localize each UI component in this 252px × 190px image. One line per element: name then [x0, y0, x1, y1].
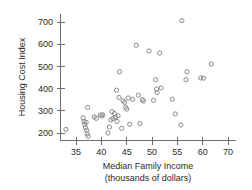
data-point [117, 70, 121, 74]
y-tick-label: 200 [38, 128, 53, 138]
x-axis-title: Median Family Income [103, 161, 194, 171]
data-point [147, 49, 151, 53]
y-tick-label: 300 [38, 106, 53, 116]
y-tick-label: 500 [38, 62, 53, 72]
data-point [158, 51, 162, 55]
x-tick-label: 60 [198, 147, 208, 157]
data-point [138, 121, 142, 125]
housing-cost-scatter-chart: 200300400500600700 35404550556070 Median… [0, 0, 252, 190]
y-tick-label: 600 [38, 39, 53, 49]
x-tick-label: 50 [147, 147, 157, 157]
y-tick-label: 400 [38, 84, 53, 94]
x-tick-label: 40 [96, 147, 106, 157]
data-point [134, 43, 138, 47]
data-point [151, 98, 155, 102]
data-point [185, 70, 189, 74]
x-axis: 35404550556070 [60, 137, 236, 158]
data-point [64, 127, 68, 131]
data-point [117, 95, 121, 99]
data-point [114, 88, 118, 92]
data-points-layer [64, 19, 214, 139]
scatterplot-figure: 200300400500600700 35404550556070 Median… [0, 0, 252, 190]
y-axis: 200300400500600700 [38, 14, 65, 140]
data-point [179, 123, 183, 127]
x-axis-title-sub: (thousands of dollars) [105, 173, 192, 183]
data-point [126, 96, 130, 100]
x-tick-label: 55 [172, 147, 182, 157]
data-point [106, 131, 110, 135]
data-point [107, 125, 111, 129]
x-tick-label: 35 [71, 147, 81, 157]
data-point [136, 93, 140, 97]
data-point [86, 105, 90, 109]
data-point [128, 122, 132, 126]
data-point [201, 76, 205, 80]
y-axis-title: Housing Cost Index [17, 37, 27, 116]
data-point [153, 78, 157, 82]
data-point [170, 97, 174, 101]
data-point [159, 86, 163, 90]
data-point [184, 78, 188, 82]
x-tick-label: 70 [223, 147, 233, 157]
data-point [209, 62, 213, 66]
data-point [131, 97, 135, 101]
data-point [173, 112, 177, 116]
data-point [120, 126, 124, 130]
data-point [115, 119, 119, 123]
data-point [180, 19, 184, 23]
y-tick-label: 700 [38, 17, 53, 27]
x-tick-label: 45 [122, 147, 132, 157]
